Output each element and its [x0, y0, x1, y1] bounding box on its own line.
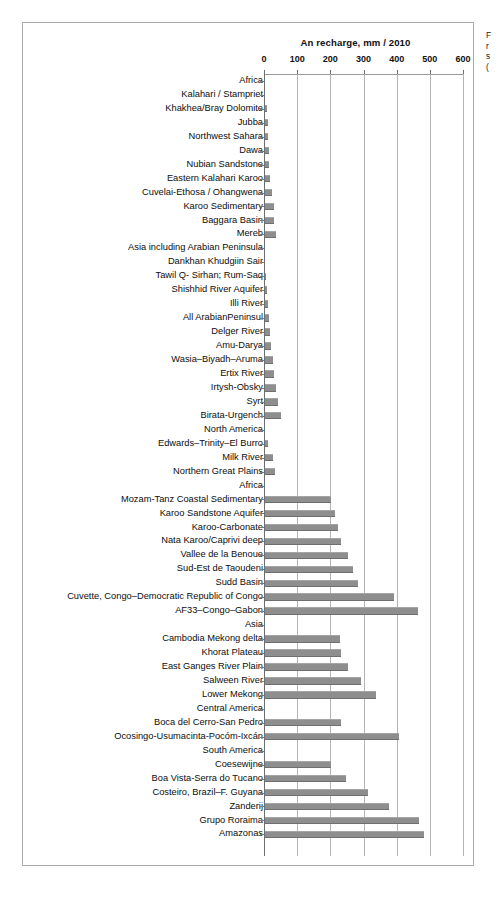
bar-row: Delger River	[0, 325, 503, 339]
y-tick-mark	[260, 332, 264, 333]
bar	[265, 161, 269, 168]
x-tick-label-0: 0	[261, 54, 266, 64]
category-label: Asia including Arabian Peninsula	[128, 241, 263, 255]
group-header-row: Central America	[0, 702, 503, 716]
category-label: Northwest Sahara	[189, 130, 263, 144]
side-caption-line-4: (	[486, 62, 503, 73]
y-tick-mark	[260, 611, 264, 612]
bar-row: Eastern Kalahari Karoo	[0, 172, 503, 186]
bar-row: Sud-Est de Taoudeni	[0, 562, 503, 576]
category-label: AF33–Congo–Gabon	[175, 604, 263, 618]
y-tick-mark	[260, 151, 264, 152]
bar	[265, 203, 274, 210]
bar-row: Tawil Q- Sirhan; Rum-Saq	[0, 269, 503, 283]
category-label: Baggara Basin	[202, 214, 263, 228]
bar	[265, 328, 270, 335]
y-tick-mark	[260, 820, 264, 821]
bar	[265, 510, 335, 517]
category-label: Amazonas	[219, 827, 263, 841]
bar	[265, 691, 376, 698]
bar-row: Illi River	[0, 297, 503, 311]
bar	[265, 677, 361, 684]
category-label: Birata-Urgench	[200, 409, 263, 423]
bar-row: Grupo Roraima	[0, 814, 503, 828]
category-label: Kalahari / Stampriet	[181, 88, 263, 102]
category-label: Khorat Plateau	[201, 646, 263, 660]
y-tick-mark	[260, 667, 264, 668]
category-label: Nata Karoo/Caprivi deep	[161, 534, 263, 548]
category-label: Edwards–Trinity–El Burro	[158, 437, 263, 451]
category-label: Tawil Q- Sirhan; Rum-Saq	[156, 269, 263, 283]
bar-row: East Ganges River Plain	[0, 660, 503, 674]
y-tick-mark	[260, 290, 264, 291]
bar	[265, 663, 348, 670]
bar	[265, 496, 331, 503]
y-tick-mark	[260, 137, 264, 138]
category-label: Karoo-Carbonate	[192, 521, 263, 535]
y-tick-mark	[260, 723, 264, 724]
bar-row: Jubba	[0, 116, 503, 130]
bar	[265, 119, 268, 126]
bar-row: Baggara Basin	[0, 214, 503, 228]
y-tick-mark	[260, 751, 264, 752]
group-header-row: South America	[0, 744, 503, 758]
y-tick-mark	[260, 779, 264, 780]
category-label: Illi River	[230, 297, 263, 311]
bar	[265, 789, 368, 796]
y-tick-mark	[260, 472, 264, 473]
y-tick-mark	[260, 653, 264, 654]
group-header-row: Asia	[0, 618, 503, 632]
bar-row: Cuvelai-Ethosa / Ohangwena	[0, 186, 503, 200]
y-tick-mark	[260, 360, 264, 361]
y-tick-mark	[260, 806, 264, 807]
category-label: Mozam-Tanz Coastal Sedimentary	[121, 493, 263, 507]
x-tick-label-300: 300	[356, 54, 371, 64]
y-tick-mark	[260, 304, 264, 305]
bar-row: Lower Mekong	[0, 688, 503, 702]
bar-row: Edwards–Trinity–El Burro	[0, 437, 503, 451]
category-label: North America	[204, 423, 263, 437]
bar	[265, 286, 267, 293]
bar-row: Amu-Darya	[0, 339, 503, 353]
category-label: South America	[203, 744, 263, 758]
y-tick-mark	[260, 416, 264, 417]
category-label: Ertix River	[220, 367, 263, 381]
bar-row: Birata-Urgench	[0, 409, 503, 423]
bar-row: Dankhan Khudgiin Sair	[0, 255, 503, 269]
category-label: Northern Great Plains	[173, 465, 263, 479]
y-tick-mark	[260, 555, 264, 556]
x-tick-label-500: 500	[422, 54, 437, 64]
category-label: Salween River	[203, 674, 263, 688]
bar-row: Irtysh-Obsky	[0, 381, 503, 395]
y-tick-mark	[260, 709, 264, 710]
y-tick-mark	[260, 234, 264, 235]
bar	[265, 719, 341, 726]
x-axis-tick-labels: 0100200300400500600	[0, 54, 503, 66]
bar-rows: AfricaKalahari / StamprietKhakhea/Bray D…	[0, 74, 503, 856]
bar	[265, 775, 346, 782]
side-caption: F r s (	[486, 30, 503, 72]
bar	[265, 593, 394, 600]
y-tick-mark	[260, 681, 264, 682]
bar	[265, 300, 268, 307]
bar-row: Boca del Cerro-San Pedro	[0, 716, 503, 730]
bar	[265, 635, 340, 642]
y-tick-mark	[260, 193, 264, 194]
y-tick-mark	[260, 179, 264, 180]
bar	[265, 231, 276, 238]
category-label: Amu-Darya	[216, 339, 263, 353]
y-tick-mark	[260, 486, 264, 487]
bar-row: Kalahari / Stampriet	[0, 88, 503, 102]
bar-row: Mozam-Tanz Coastal Sedimentary	[0, 493, 503, 507]
bar-row: Cambodia Mekong delta	[0, 632, 503, 646]
bar-row: All ArabianPeninsul	[0, 311, 503, 325]
bar	[265, 580, 358, 587]
category-label: Sud-Est de Taoudeni	[177, 562, 263, 576]
y-tick-mark	[260, 248, 264, 249]
bar	[265, 342, 271, 349]
bar-row: Karoo-Carbonate	[0, 521, 503, 535]
bar	[265, 105, 267, 112]
bar-row: Milk River	[0, 451, 503, 465]
x-tick-label-100: 100	[290, 54, 305, 64]
y-tick-mark	[260, 444, 264, 445]
